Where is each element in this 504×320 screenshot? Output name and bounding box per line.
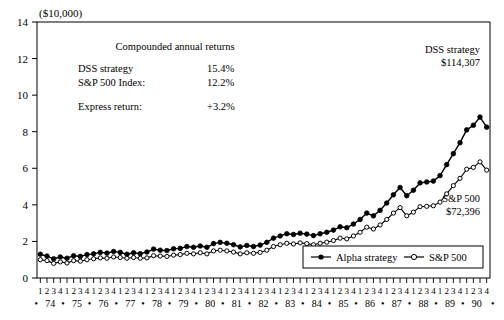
data-point: [478, 160, 482, 164]
data-point: [298, 231, 303, 236]
data-point: [191, 245, 196, 250]
legend-marker-sp500: [411, 254, 416, 259]
x-tick-label-year: 79: [179, 298, 189, 309]
x-tick-label-quarter: 1: [464, 286, 469, 296]
x-tick-label-quarter: 2: [178, 286, 183, 296]
x-year-separator-dot: •: [221, 298, 225, 309]
x-tick-label-quarter: 3: [265, 286, 270, 296]
stats-row-label-1: S&P 500 Index:: [78, 77, 145, 88]
data-point: [378, 208, 383, 213]
x-year-separator-dot: •: [35, 298, 39, 309]
data-point: [138, 251, 143, 256]
data-point: [238, 252, 242, 256]
data-point: [331, 238, 335, 242]
x-year-separator-dot: •: [141, 298, 145, 309]
data-point: [218, 240, 223, 245]
x-tick-label-quarter: 3: [478, 286, 483, 296]
x-year-separator-dot: •: [301, 298, 305, 309]
x-tick-label-quarter: 1: [91, 286, 96, 296]
x-tick-label-quarter: 4: [111, 286, 116, 296]
data-point: [238, 245, 243, 250]
x-year-separator-dot: •: [274, 298, 278, 309]
data-point: [178, 246, 183, 251]
data-point: [165, 248, 170, 253]
x-tick-label-quarter: 1: [65, 286, 70, 296]
x-tick-label-quarter: 1: [118, 286, 123, 296]
data-point: [324, 230, 329, 235]
data-point: [218, 248, 222, 252]
data-point: [145, 250, 150, 255]
x-year-separator-dot: •: [461, 298, 465, 309]
data-point: [471, 165, 475, 169]
data-point: [291, 242, 295, 246]
data-point: [78, 254, 83, 259]
data-point: [404, 193, 409, 198]
data-point: [438, 173, 443, 178]
x-tick-label-quarter: 4: [458, 286, 463, 296]
x-year-separator-dot: •: [168, 298, 172, 309]
data-point: [112, 255, 116, 259]
data-point: [431, 179, 436, 184]
data-point: [251, 244, 256, 249]
data-point: [225, 241, 230, 246]
x-tick-label-quarter: 3: [291, 286, 296, 296]
data-point: [425, 204, 429, 208]
data-point: [51, 257, 56, 262]
data-point: [185, 251, 189, 255]
data-point: [45, 259, 49, 263]
data-point: [391, 193, 396, 198]
x-tick-label-quarter: 4: [85, 286, 90, 296]
x-tick-label-quarter: 2: [98, 286, 103, 296]
x-tick-label-quarter: 4: [271, 286, 276, 296]
x-tick-label-year: 82: [259, 298, 269, 309]
x-tick-label-quarter: 4: [378, 286, 383, 296]
x-tick-label-quarter: 2: [205, 286, 210, 296]
x-year-separator-dot: •: [381, 298, 385, 309]
data-point: [358, 217, 363, 222]
x-year-separator-dot: •: [194, 298, 198, 309]
data-point: [158, 254, 162, 258]
data-point: [391, 211, 395, 215]
data-point: [325, 240, 329, 244]
legend-label-sp500: S&P 500: [429, 252, 467, 263]
data-point: [385, 217, 389, 221]
data-point: [471, 123, 476, 128]
dss-annotation-line-1: $114,307: [441, 57, 480, 68]
stats-row-value-1: 12.2%: [207, 77, 234, 88]
data-point: [338, 236, 342, 240]
y-axis-unit-label: ($10,000): [39, 7, 82, 20]
data-point: [145, 256, 149, 260]
x-tick-label-quarter: 3: [451, 286, 456, 296]
x-tick-label-quarter: 2: [391, 286, 396, 296]
data-point: [71, 253, 76, 258]
x-tick-label-quarter: 2: [418, 286, 423, 296]
x-tick-label-quarter: 2: [338, 286, 343, 296]
data-point: [418, 181, 423, 186]
data-point: [405, 214, 409, 218]
x-tick-label-year: 88: [418, 298, 428, 309]
chart-legend[interactable]: Alpha strategy S&P 500: [303, 246, 483, 268]
x-year-separator-dot: •: [354, 298, 358, 309]
x-tick-label-quarter: 4: [58, 286, 63, 296]
x-year-separator-dot: •: [408, 298, 412, 309]
data-point: [305, 242, 309, 246]
x-tick-label-quarter: 3: [158, 286, 163, 296]
data-point: [411, 188, 416, 193]
x-tick-label-quarter: 2: [311, 286, 316, 296]
x-tick-label-quarter: 2: [231, 286, 236, 296]
x-tick-label-quarter: 3: [318, 286, 323, 296]
legend-marker-alpha: [318, 254, 323, 259]
data-point: [231, 242, 236, 247]
y-tick-label: 10: [17, 89, 29, 101]
x-tick-label-quarter: 3: [424, 286, 429, 296]
x-tick-label-quarter: 2: [285, 286, 290, 296]
x-tick-label-year: 77: [125, 298, 135, 309]
x-year-separator-dot: •: [491, 298, 495, 309]
data-point: [384, 201, 389, 206]
x-tick-label-year: 86: [365, 298, 375, 309]
x-tick-label-quarter: 4: [165, 286, 170, 296]
x-tick-label-quarter: 1: [171, 286, 176, 296]
x-tick-label-quarter: 4: [245, 286, 250, 296]
data-point: [258, 243, 263, 248]
x-tick-label-quarter: 2: [71, 286, 76, 296]
